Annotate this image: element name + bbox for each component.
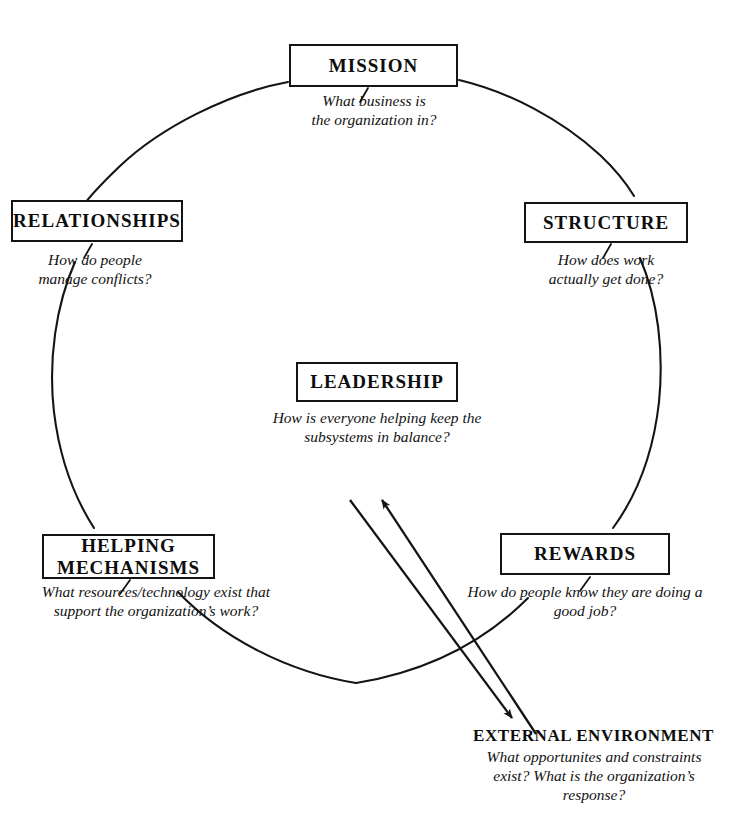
node-mission-caption: What business is the organization in?: [283, 92, 465, 130]
node-mission[interactable]: MISSION: [289, 44, 458, 87]
weisbord-six-box-diagram: MISSION What business is the organizatio…: [0, 0, 736, 831]
node-helping-mechanisms[interactable]: HELPING MECHANISMS: [42, 534, 215, 579]
external-environment-title: EXTERNAL ENVIRONMENT: [466, 726, 721, 746]
node-helping-mechanisms-label: HELPING MECHANISMS: [57, 535, 200, 578]
node-structure-label: STRUCTURE: [543, 212, 669, 233]
node-structure-caption: How does work actually get done?: [518, 251, 694, 289]
node-relationships-label: RELATIONSHIPS: [13, 210, 181, 231]
node-rewards-caption: How do people know they are doing a good…: [459, 583, 711, 621]
node-structure[interactable]: STRUCTURE: [524, 202, 688, 243]
node-rewards-label: REWARDS: [534, 543, 636, 564]
node-relationships[interactable]: RELATIONSHIPS: [11, 200, 183, 242]
node-leadership-caption: How is everyone helping keep the subsyst…: [266, 409, 488, 447]
node-helping-mechanisms-caption: What resources/technology exist that sup…: [33, 583, 279, 621]
caption-stems: [84, 88, 611, 594]
node-mission-label: MISSION: [329, 55, 418, 76]
node-leadership[interactable]: LEADERSHIP: [296, 362, 458, 402]
external-environment-caption: What opportunites and constraints exist?…: [470, 748, 718, 805]
node-rewards[interactable]: REWARDS: [500, 533, 670, 575]
node-relationships-caption: How do people manage conflicts?: [5, 251, 185, 289]
node-leadership-label: LEADERSHIP: [310, 371, 444, 392]
